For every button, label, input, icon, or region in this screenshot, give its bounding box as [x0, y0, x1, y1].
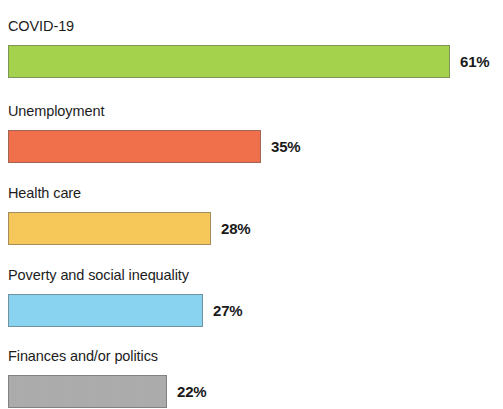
- bar-row: 35%: [0, 130, 503, 163]
- horizontal-bar-chart: COVID-1961%Unemployment35%Health care28%…: [0, 0, 503, 409]
- bar-category-label: Poverty and social inequality: [8, 267, 189, 283]
- bar-rect: [8, 294, 203, 327]
- clipped-heading-remnant: [0, 0, 503, 7]
- bar-row: 27%: [0, 294, 503, 327]
- bar-category-label: Unemployment: [8, 103, 104, 119]
- bar-row: 22%: [0, 375, 503, 408]
- bar-value-label: 61%: [460, 53, 489, 70]
- bar-category-label: Finances and/or politics: [8, 348, 158, 364]
- bar-rect: [8, 212, 211, 245]
- bar-value-label: 28%: [221, 220, 250, 237]
- bar-rect: [8, 45, 450, 78]
- bar-category-label: Health care: [8, 185, 81, 201]
- bar-row: 28%: [0, 212, 503, 245]
- bar-value-label: 22%: [177, 383, 206, 400]
- bar-rect: [8, 130, 261, 163]
- bar-row: 61%: [0, 45, 503, 78]
- bar-value-label: 27%: [213, 302, 242, 319]
- bar-value-label: 35%: [271, 138, 300, 155]
- bar-category-label: COVID-19: [8, 18, 74, 34]
- bar-rect: [8, 375, 167, 408]
